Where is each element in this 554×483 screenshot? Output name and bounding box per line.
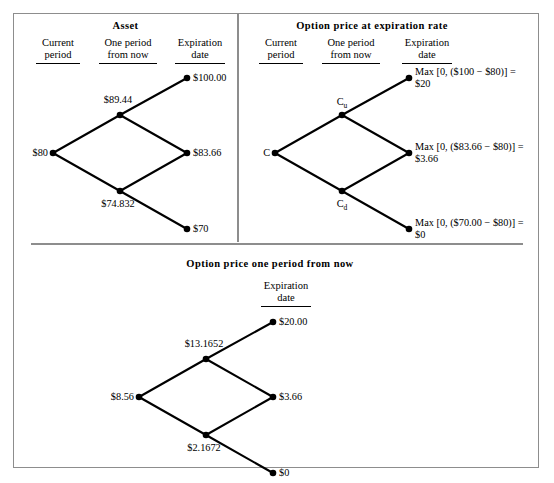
node-uu	[270, 319, 277, 326]
edge-down-ud	[342, 153, 409, 191]
node-label-up: Cu	[337, 96, 348, 108]
node-label-down: $74.832	[101, 198, 134, 210]
node-label-root-text: C	[263, 147, 270, 158]
node-label-dd-line1: Max [0, ($70.00 − $80)] =	[415, 217, 554, 229]
node-label-uu-line2: $20	[415, 78, 554, 90]
node-uu	[406, 75, 413, 82]
node-root	[272, 150, 279, 157]
node-label-up-text: C	[337, 96, 344, 107]
node-label-down-text: C	[337, 198, 344, 209]
node-label-up-subscript: u	[344, 101, 348, 110]
panel-option-expiration: Option price at expiration rate Current …	[238, 14, 540, 242]
edge-up-uu	[342, 78, 409, 115]
edge-down-ud	[120, 153, 187, 191]
node-root	[136, 394, 143, 401]
node-down	[203, 432, 210, 439]
node-label-ud-line1: Max [0, ($83.66 − $80)] =	[415, 141, 554, 153]
node-root	[50, 150, 57, 157]
node-label-dd-line2: $0	[415, 229, 554, 241]
node-label-dd: $0	[279, 467, 289, 479]
node-ud	[270, 394, 277, 401]
edge-root-up	[139, 359, 206, 397]
node-label-ud-line2: $3.66	[415, 153, 554, 165]
edge-down-dd	[120, 191, 187, 229]
node-down	[117, 188, 124, 195]
node-up	[203, 356, 210, 363]
node-label-root: $8.56	[111, 391, 134, 403]
edge-up-ud	[342, 115, 409, 153]
node-dd	[406, 226, 413, 233]
edge-down-dd	[342, 191, 409, 229]
node-ud	[184, 150, 191, 157]
node-label-dd: Max [0, ($70.00 − $80)] = $0	[415, 217, 554, 240]
edge-up-ud	[120, 115, 187, 153]
edge-root-down	[53, 153, 120, 191]
node-label-uu-line1: Max [0, ($100 − $80)] =	[415, 66, 554, 78]
edge-root-down	[275, 153, 342, 191]
node-uu	[184, 75, 191, 82]
node-label-ud: $83.66	[193, 147, 221, 159]
node-dd	[184, 226, 191, 233]
panel-option-one-period: Option price one period from now Expirat…	[14, 244, 540, 469]
node-ud	[406, 150, 413, 157]
node-up	[117, 112, 124, 119]
node-label-down-subscript: d	[344, 203, 348, 212]
node-label-root: C	[263, 147, 270, 159]
node-label-dd: $70	[193, 223, 208, 235]
node-up	[339, 112, 346, 119]
edge-root-down	[139, 397, 206, 435]
node-label-uu: $20.00	[279, 316, 307, 328]
figure-frame: Asset Current period One period from now…	[13, 13, 539, 468]
node-label-up: $13.1652	[185, 338, 224, 350]
edge-up-ud	[206, 359, 273, 397]
edge-root-up	[275, 115, 342, 153]
edge-root-up	[53, 115, 120, 153]
node-label-up: $89.44	[104, 94, 132, 106]
node-label-ud: $3.66	[279, 391, 302, 403]
node-label-uu: Max [0, ($100 − $80)] = $20	[415, 66, 554, 89]
node-label-ud: Max [0, ($83.66 − $80)] = $3.66	[415, 141, 554, 164]
edge-down-dd	[206, 435, 273, 473]
edge-down-ud	[206, 397, 273, 435]
node-down	[339, 188, 346, 195]
node-dd	[270, 470, 277, 477]
node-label-root: $80	[33, 147, 48, 159]
node-label-down: Cd	[337, 198, 348, 210]
option-one-period-tree-lattice	[14, 244, 540, 469]
node-label-uu: $100.00	[193, 72, 226, 84]
option-expiration-tree-lattice	[238, 14, 540, 242]
panel-asset: Asset Current period One period from now…	[14, 14, 237, 242]
node-label-down: $2.1672	[187, 442, 220, 454]
